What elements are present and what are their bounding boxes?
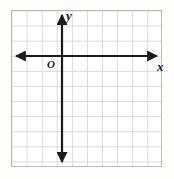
y-axis-label: y [66, 9, 72, 22]
coordinate-plane-figure: y x O [0, 0, 174, 179]
x-axis-label: x [157, 60, 164, 73]
graph-grid [11, 10, 162, 167]
origin-label: O [47, 59, 55, 70]
